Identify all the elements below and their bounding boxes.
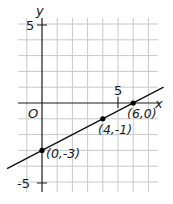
y-axis-label: y <box>35 3 44 18</box>
line-graph <box>7 87 164 168</box>
origin-label: O <box>28 106 38 121</box>
x-tick-label-5: 5 <box>114 83 122 98</box>
data-point <box>100 116 105 121</box>
y-tick-label-neg5: -5 <box>17 176 30 191</box>
data-point <box>131 100 136 105</box>
point-label-4-neg1: (4,-1) <box>98 122 132 137</box>
point-label-0-neg3: (0,-3) <box>46 146 80 161</box>
y-tick-label-5: 5 <box>26 18 34 33</box>
point-label-6-0: (6,0) <box>127 106 157 121</box>
coordinate-graph: y x O 5 -5 5 (0,-3) (4,-1) (6,0) <box>0 0 173 204</box>
grid-lines <box>18 18 158 192</box>
data-point <box>39 148 44 153</box>
